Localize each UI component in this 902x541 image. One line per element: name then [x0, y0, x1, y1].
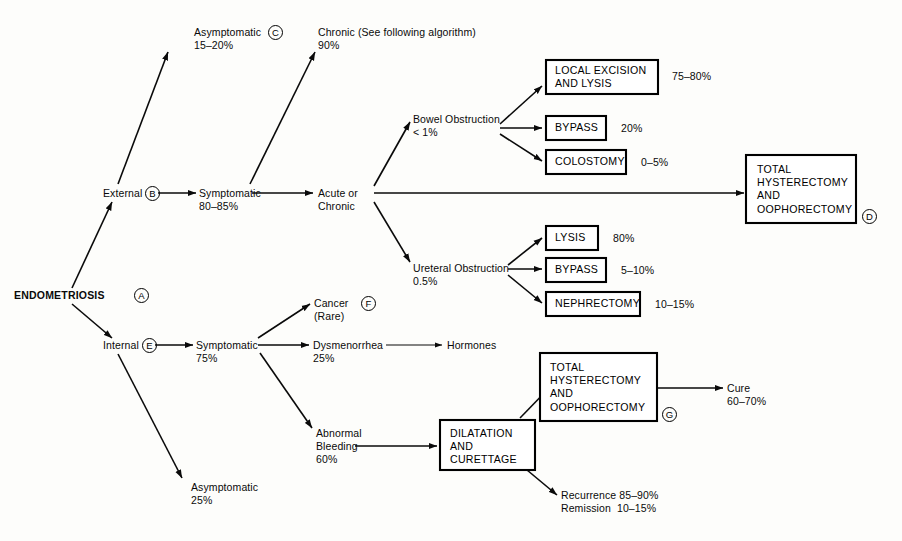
node-acute-or-chronic-line2: Chronic — [318, 200, 355, 212]
box-ureteral-bypass-text: BYPASS — [555, 263, 598, 276]
marker-b: B — [145, 186, 160, 201]
node-internal-label: Internal — [103, 339, 139, 351]
marker-c: C — [268, 25, 283, 40]
box-ureteral-bypass-rate: 5–10% — [621, 264, 654, 276]
endometriosis-algorithm-diagram: ENDOMETRIOSIS A External B Internal E As… — [0, 0, 902, 541]
node-ext-asymptomatic-rate: 15–20% — [194, 39, 233, 51]
node-dysmenorrhea-label: Dysmenorrhea — [313, 339, 383, 351]
box-dilatation-curettage-text: DILATATION AND CURETTAGE — [450, 427, 517, 467]
node-bowel-obstruction-rate: < 1% — [413, 126, 438, 138]
node-cure-label: Cure — [727, 382, 750, 394]
node-ureteral-obstruction-label: Ureteral Obstruction — [413, 262, 509, 274]
box-colostomy-rate: 0–5% — [641, 156, 668, 168]
edge-acute-to-bowel-obstruction — [374, 122, 410, 186]
edge-root-to-internal — [72, 304, 112, 338]
box-tah-bso-lower-text: TOTAL HYSTERECTOMY AND OOPHORECTOMY — [550, 361, 645, 414]
edge-symptomatic-to-chronic — [250, 52, 315, 184]
box-nephrectomy-rate: 10–15% — [655, 298, 694, 310]
node-ext-symptomatic-rate: 80–85% — [199, 200, 238, 212]
edge-int-symptomatic-to-cancer — [258, 304, 310, 338]
node-acute-or-chronic-line1: Acute or — [318, 187, 358, 199]
box-bowel-bypass-text: BYPASS — [555, 121, 598, 134]
node-cure-rate: 60–70% — [727, 395, 766, 407]
box-lysis-rate: 80% — [613, 232, 634, 244]
node-ureteral-obstruction-rate: 0.5% — [413, 275, 437, 287]
marker-e: E — [142, 338, 157, 353]
node-abnormal-bleeding-rate: 60% — [316, 453, 337, 465]
marker-d: D — [862, 209, 877, 224]
edge-bowel-to-colostomy — [500, 134, 542, 161]
node-recurrence-label: Recurrence 85–90% — [561, 489, 658, 501]
box-nephrectomy-text: NEPHRECTOMY — [555, 297, 640, 310]
node-int-asymptomatic-rate: 25% — [191, 494, 212, 506]
edge-int-symptomatic-to-abnormal-bleeding — [260, 353, 312, 428]
node-bowel-obstruction-label: Bowel Obstruction — [413, 113, 500, 125]
node-cancer-label: Cancer — [314, 297, 348, 309]
edge-dilatation-to-recurrence — [527, 470, 557, 495]
box-lysis-text: LYSIS — [555, 231, 586, 244]
box-colostomy-text: COLOSTOMY — [555, 155, 625, 168]
box-local-excision-rate: 75–80% — [672, 70, 711, 82]
node-int-symptomatic-label: Symptomatic — [196, 339, 258, 351]
root-label: ENDOMETRIOSIS — [14, 289, 105, 301]
node-chronic-label: Chronic (See following algorithm) — [318, 26, 476, 38]
edge-internal-to-asymptomatic — [118, 354, 182, 478]
box-bowel-bypass-rate: 20% — [621, 122, 642, 134]
node-cancer-qualifier: (Rare) — [314, 310, 344, 322]
node-hormones-label: Hormones — [447, 339, 496, 351]
node-ext-symptomatic-label: Symptomatic — [199, 187, 261, 199]
edge-ureteral-to-lysis — [508, 238, 542, 265]
node-int-symptomatic-rate: 75% — [196, 352, 217, 364]
node-external-label: External — [103, 187, 142, 199]
marker-a: A — [134, 288, 149, 303]
box-tah-bso-upper-text: TOTAL HYSTERECTOMY AND OOPHORECTOMY — [757, 163, 852, 216]
edge-acute-to-ureteral-obstruction — [374, 202, 410, 262]
edge-root-to-external — [72, 202, 112, 288]
marker-g: G — [662, 407, 677, 422]
node-abnormal-bleeding-line1: Abnormal — [316, 427, 362, 439]
node-int-asymptomatic-label: Asymptomatic — [191, 481, 258, 493]
node-dysmenorrhea-rate: 25% — [313, 352, 334, 364]
node-remission-label: Remission 10–15% — [561, 502, 656, 514]
edge-external-to-asymptomatic — [118, 52, 168, 184]
edge-bowel-to-local-excision — [500, 86, 542, 124]
marker-f: F — [361, 296, 376, 311]
node-abnormal-bleeding-line2: Bleeding — [316, 440, 358, 452]
node-ext-asymptomatic-label: Asymptomatic — [194, 26, 261, 38]
edge-ureteral-to-nephrectomy — [508, 275, 542, 303]
box-local-excision-text: LOCAL EXCISION AND LYSIS — [555, 64, 646, 90]
node-chronic-rate: 90% — [318, 39, 339, 51]
